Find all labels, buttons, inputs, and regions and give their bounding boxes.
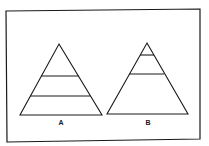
pyramid-a-label: A <box>58 119 63 126</box>
pyramid-diagram: A B <box>0 0 209 146</box>
diagram-frame <box>6 9 200 142</box>
pyramid-a: A <box>20 44 102 126</box>
pyramid-b-outline <box>107 43 188 114</box>
pyramid-a-outline <box>20 44 102 115</box>
pyramid-b: B <box>107 43 188 126</box>
pyramid-b-label: B <box>145 119 150 126</box>
